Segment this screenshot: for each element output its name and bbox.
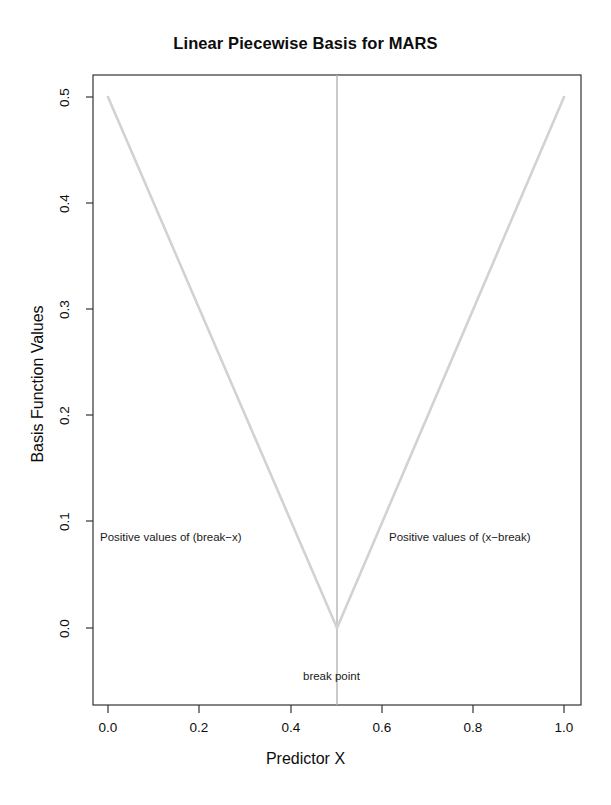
y-tick-label-0.4: 0.4	[57, 184, 72, 224]
y-tick-label-0.5: 0.5	[57, 78, 72, 118]
x-tick-label-0.4: 0.4	[261, 720, 321, 735]
plot-area	[0, 0, 611, 805]
y-axis-ticks	[86, 97, 93, 628]
x-tick-label-0.0: 0.0	[78, 720, 138, 735]
annotation-break-point: break point	[303, 670, 360, 682]
x-tick-label-0.8: 0.8	[443, 720, 503, 735]
x-axis-ticks	[108, 705, 564, 713]
annotation-left-basis: Positive values of (break−x)	[100, 531, 242, 543]
y-tick-label-0.0: 0.0	[57, 609, 72, 649]
x-tick-label-1.0: 1.0	[534, 720, 594, 735]
x-tick-label-0.2: 0.2	[169, 720, 229, 735]
y-tick-label-0.1: 0.1	[57, 502, 72, 542]
x-tick-label-0.6: 0.6	[352, 720, 412, 735]
y-tick-label-0.2: 0.2	[57, 396, 72, 436]
chart-figure: Linear Piecewise Basis for MARS Basis Fu…	[0, 0, 611, 805]
basis-line-break-minus-x	[108, 97, 337, 628]
y-tick-label-0.3: 0.3	[57, 290, 72, 330]
basis-line-x-minus-break	[337, 97, 564, 628]
annotation-right-basis: Positive values of (x−break)	[389, 531, 531, 543]
